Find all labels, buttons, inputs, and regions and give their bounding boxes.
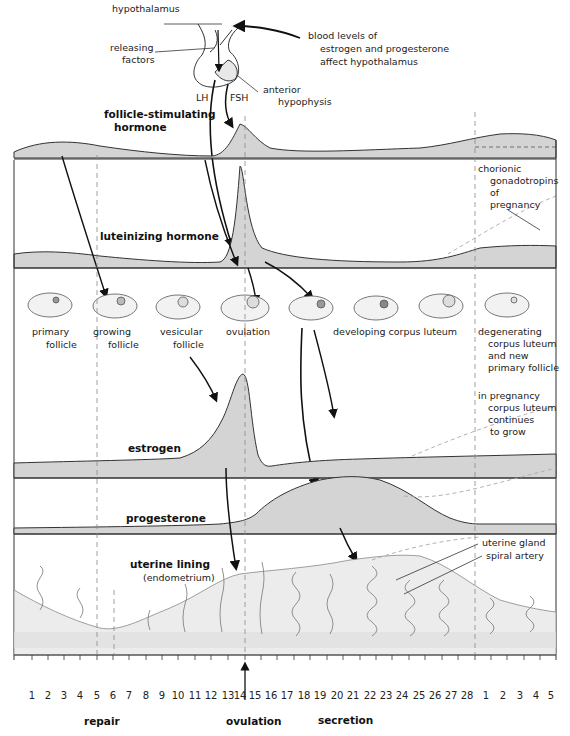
day-label: 9	[159, 690, 165, 701]
day-label: 23	[380, 690, 393, 701]
follicle-label-degenerating-4: primary follicle	[488, 362, 559, 374]
phase-repair: repair	[84, 715, 120, 727]
day-label: 19	[314, 690, 327, 701]
day-label: 21	[347, 690, 360, 701]
cycle-diagram	[0, 0, 570, 736]
follicle-label-primary-2: follicle	[46, 339, 77, 351]
lh-band-label: luteinizing hormone	[100, 230, 219, 242]
fsh-band-label-2: hormone	[114, 121, 167, 133]
hypothalamus-label: hypothalamus	[112, 3, 180, 15]
estrogen-band	[14, 374, 556, 478]
endometrium-label: (endometrium)	[143, 572, 215, 584]
follicle-label-primary: primary	[32, 326, 69, 338]
day-label: 13	[222, 690, 235, 701]
fsh-label: FSH	[230, 92, 248, 104]
progesterone-label: progesterone	[126, 512, 206, 524]
spiral-artery-label: spiral artery	[486, 550, 544, 562]
day-label: 12	[205, 690, 218, 701]
pregnancy-label-4: to grow	[490, 426, 526, 438]
releasing-arrow	[218, 30, 219, 70]
follicle-label-vesicular: vesicular	[160, 326, 203, 338]
day-label: 25	[413, 690, 426, 701]
day-label: 5	[94, 690, 100, 701]
anterior-hypophysis-pointer	[238, 76, 258, 92]
uterine-gland-label: uterine gland	[482, 537, 546, 549]
follicle-label-growing-2: follicle	[108, 339, 139, 351]
day-label: 14	[234, 690, 247, 701]
day-label: 28	[461, 690, 474, 701]
follicle-label-degenerating-3: and new	[488, 350, 529, 362]
day-label: 18	[298, 690, 311, 701]
fsh-arrow	[226, 84, 232, 126]
chorionic-label-4: pregnancy	[490, 199, 540, 211]
day-label: 3	[61, 690, 67, 701]
estrogen-label: estrogen	[128, 442, 181, 454]
phase-secretion: secretion	[318, 714, 373, 726]
follicle-label-degenerating-2: corpus luteum	[488, 338, 556, 350]
day-label: 8	[143, 690, 149, 701]
day-label: 3	[517, 690, 523, 701]
corpus-luteum-to-estrogen-arrow	[314, 330, 334, 416]
day-label: 4	[77, 690, 83, 701]
follicle-label-corpus-luteum: developing corpus luteum	[333, 326, 457, 338]
follicle-label-growing: growing	[93, 326, 131, 338]
follicle-label-degenerating: degenerating	[478, 326, 542, 338]
day-label: 1	[483, 690, 489, 701]
feedback-arrow	[236, 26, 300, 38]
day-label: 1	[29, 690, 35, 701]
day-label: 4	[533, 690, 539, 701]
lh-label: LH	[196, 92, 208, 104]
releasing-factors-label-2: factors	[122, 54, 155, 66]
day-label: 11	[189, 690, 202, 701]
uterine-lining-label: uterine lining	[130, 558, 210, 570]
day-label: 7	[126, 690, 132, 701]
day-label: 27	[445, 690, 458, 701]
day-label: 10	[172, 690, 185, 701]
fsh-band-label: follicle-stimulating	[104, 108, 215, 120]
pregnancy-label-3: continues	[488, 414, 534, 426]
day-label: 24	[396, 690, 409, 701]
follicle-label-ovulation: ovulation	[226, 326, 270, 338]
follicle-icons	[28, 293, 529, 321]
day-label: 17	[281, 690, 294, 701]
anterior-hypophysis-label: anterior	[263, 84, 301, 96]
day-label: 26	[429, 690, 442, 701]
day-label: 5	[548, 690, 554, 701]
fsh-to-follicle-arrow	[62, 156, 106, 296]
releasing-factors-label: releasing	[110, 42, 154, 54]
day-label: 20	[331, 690, 344, 701]
day-label: 22	[364, 690, 377, 701]
chorionic-label-1: chorionic	[478, 163, 521, 175]
day-label: 15	[249, 690, 262, 701]
feedback-label-1: blood levels of	[308, 30, 377, 42]
follicle-to-estrogen-arrow	[190, 357, 216, 400]
day-label: 2	[500, 690, 506, 701]
phase-ovulation: ovulation	[226, 715, 282, 727]
feedback-label-2: estrogen and progesterone	[320, 43, 449, 55]
follicle-label-vesicular-2: follicle	[173, 339, 204, 351]
estrogen-to-uterus-arrow	[226, 468, 236, 568]
releasing-factors-pointer	[155, 48, 214, 52]
day-ticks	[32, 655, 540, 660]
chorionic-label-3: of	[490, 187, 499, 199]
day-label: 2	[45, 690, 51, 701]
day-label: 16	[265, 690, 278, 701]
pregnancy-label-2: corpus luteum	[488, 402, 556, 414]
anterior-hypophysis-label-2: hypophysis	[278, 96, 332, 108]
pituitary-gland	[194, 24, 239, 87]
day-label: 6	[110, 690, 116, 701]
lh-band	[14, 166, 556, 268]
pregnancy-label-1: in pregnancy	[478, 390, 540, 402]
feedback-label-3: affect hypothalamus	[320, 56, 418, 68]
chorionic-label-2: gonadotropins	[490, 175, 558, 187]
